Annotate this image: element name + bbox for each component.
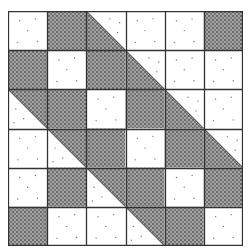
quilt-cell <box>204 89 243 128</box>
quilt-cell <box>8 168 47 207</box>
quilt-cell <box>86 168 125 207</box>
quilt-cell <box>8 207 47 246</box>
quilt-cell <box>47 50 86 89</box>
quilt-cell <box>86 11 125 50</box>
quilt-cell <box>165 50 204 89</box>
quilt-cell <box>126 129 165 168</box>
quilt-cell <box>204 11 243 50</box>
quilt-cell <box>204 207 243 246</box>
quilt-cell <box>126 207 165 246</box>
quilt-cell <box>47 11 86 50</box>
quilt-cell <box>8 89 47 128</box>
quilt-cell <box>204 50 243 89</box>
quilt-grid <box>8 11 243 246</box>
quilt-cell <box>86 207 125 246</box>
quilt-cell <box>47 207 86 246</box>
quilt-cell <box>126 168 165 207</box>
quilt-cell <box>165 11 204 50</box>
quilt-cell <box>86 89 125 128</box>
quilt-cell <box>8 50 47 89</box>
quilt-cell <box>47 129 86 168</box>
quilt-cell <box>204 129 243 168</box>
cells-layer <box>8 11 243 246</box>
quilt-cell <box>165 129 204 168</box>
quilt-cell <box>126 50 165 89</box>
quilt-cell <box>47 89 86 128</box>
quilt-cell <box>8 11 47 50</box>
quilt-cell <box>126 11 165 50</box>
quilt-svg <box>8 11 243 246</box>
quilt-cell <box>165 89 204 128</box>
quilt-cell <box>165 207 204 246</box>
quilt-cell <box>126 89 165 128</box>
quilt-cell <box>204 168 243 207</box>
quilt-cell <box>47 168 86 207</box>
quilt-cell <box>86 129 125 168</box>
quilt-cell <box>8 129 47 168</box>
quilt-cell <box>165 168 204 207</box>
quilt-cell <box>86 50 125 89</box>
